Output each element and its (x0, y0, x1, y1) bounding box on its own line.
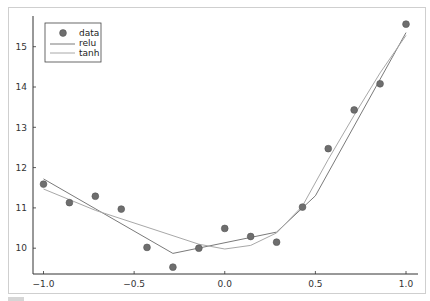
data-point (92, 193, 99, 200)
legend-label-data: data (79, 28, 99, 38)
series-lines (44, 33, 407, 254)
data-point (351, 107, 358, 114)
x-tick-label: −0.5 (123, 279, 145, 289)
data-point (273, 239, 280, 246)
legend: data relu tanh (45, 23, 101, 62)
data-point (144, 244, 151, 251)
data-point (325, 145, 332, 152)
chart-area: −1.0−0.50.00.51.0101112131415 data relu … (0, 0, 430, 301)
line-relu (44, 33, 407, 254)
y-tick-label: 11 (16, 203, 27, 213)
data-point (299, 204, 306, 211)
y-tick-label: 14 (16, 82, 28, 92)
data-point (170, 264, 177, 271)
data-point (118, 206, 125, 213)
y-tick-label: 13 (16, 123, 27, 133)
legend-label-relu: relu (79, 38, 96, 48)
data-point (195, 245, 202, 252)
data-point (40, 181, 47, 188)
x-tick-label: 1.0 (399, 279, 414, 289)
x-tick-label: −1.0 (33, 279, 55, 289)
legend-marker-data (60, 30, 67, 37)
line-tanh (44, 35, 407, 249)
data-point (66, 199, 73, 206)
y-tick-label: 12 (16, 163, 27, 173)
x-tick-label: 0.0 (218, 279, 233, 289)
data-point (247, 233, 254, 240)
data-point (377, 80, 384, 87)
data-point (403, 21, 410, 28)
legend-label-tanh: tanh (79, 48, 99, 58)
data-point (221, 225, 228, 232)
y-tick-label: 10 (16, 243, 28, 253)
x-tick-label: 0.5 (308, 279, 322, 289)
y-tick-label: 15 (16, 42, 27, 52)
